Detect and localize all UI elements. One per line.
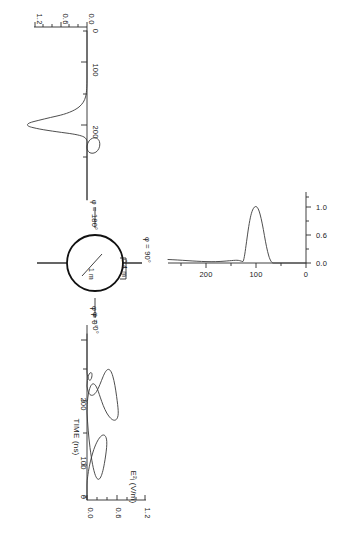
phi90-time-ticklabel-0: 0 bbox=[304, 270, 308, 279]
panel-phi-0: 0 100 200 TIME (ns) 0.0 0.6 1.2 E²ᵢ (V/m… bbox=[72, 312, 152, 518]
phi180-time-ticklabel-0: 0 bbox=[91, 29, 100, 33]
offset-label: 0.4 m bbox=[121, 259, 128, 277]
phi180-value-ticklabel-2: 1.2 bbox=[35, 13, 44, 24]
angle-label-phi-90: φ = 90° bbox=[143, 237, 152, 263]
phi90-time-ticklabel-200: 200 bbox=[199, 270, 212, 279]
phi90-time-ticks bbox=[181, 263, 306, 268]
phi0-value-ticklabel-0: 0.0 bbox=[86, 507, 95, 518]
phi0-value-ticklabel-06: 0.6 bbox=[114, 507, 123, 518]
cylinder-circle bbox=[67, 235, 123, 291]
phi90-curve bbox=[168, 207, 306, 263]
radius-label: 1 m bbox=[88, 268, 95, 280]
phi90-value-ticklabel-10: 1.0 bbox=[316, 203, 327, 212]
phi180-value-ticklabel-0: 0.0 bbox=[87, 13, 96, 24]
phi90-value-ticklabel-06: 0.6 bbox=[316, 231, 327, 240]
panel-phi-180: 0.0 0.6 1.2 0 100 200 φ = 180° bbox=[27, 13, 100, 230]
phi0-time-ticklabel-100: 100 bbox=[79, 456, 88, 469]
panel-phi-90: 0 100 200 0.0 0.6 1.0 bbox=[168, 192, 327, 279]
phi0-curve bbox=[87, 334, 118, 500]
time-axis-title: TIME (ns) bbox=[72, 419, 81, 456]
phi180-time-ticklabel-100: 100 bbox=[91, 63, 100, 76]
phi0-angle-label: φ = 0° bbox=[91, 312, 100, 334]
field-axis-title: E²ᵢ (V/m) bbox=[129, 471, 138, 504]
phi90-value-ticks bbox=[306, 197, 311, 263]
phi180-value-ticklabel-1: 0.6 bbox=[61, 13, 70, 24]
phi180-angle-label: φ = 180° bbox=[90, 200, 99, 231]
scattering-figure-svg: 0.0 0.6 1.2 0 100 200 φ = 180° 1 m bbox=[0, 0, 351, 535]
phi180-time-ticklabel-200: 200 bbox=[91, 125, 100, 138]
figure-canvas: 0.0 0.6 1.2 0 100 200 φ = 180° 1 m bbox=[0, 0, 351, 535]
phi180-curve bbox=[27, 31, 99, 200]
phi90-value-ticklabel-0: 0.0 bbox=[316, 259, 327, 268]
phi0-value-ticklabel-12: 1.2 bbox=[143, 507, 152, 518]
phi90-time-ticklabel-100: 100 bbox=[249, 270, 262, 279]
